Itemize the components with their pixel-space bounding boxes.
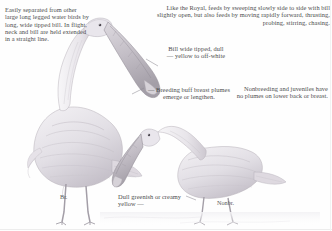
foraging-spoonbill-illustration (100, 126, 320, 226)
label-nonbreeding: Nonbr. (217, 199, 234, 206)
label-breeding: Br. (60, 193, 67, 200)
note-feeding-behavior: Like the Royal, feeds by sweeping slowly… (146, 4, 330, 26)
note-separation: Easily separated from other large long l… (5, 6, 89, 42)
leader-line-leg (186, 196, 196, 200)
note-leg-color: Dull greenish or creamy yellow — (118, 193, 184, 208)
leader-line-bill (146, 59, 158, 66)
note-nonbreeding-plumes: Nonbreeding and juveniles have no plumes… (236, 85, 328, 100)
bird-eye-2 (148, 134, 150, 136)
note-bill-description: Bill wide tipped, dull — yellow to off-w… (148, 45, 244, 60)
spoonbill-bill-2 (112, 134, 143, 187)
field-guide-plate: Easily separated from other large long l… (0, 0, 332, 231)
leader-lines (132, 59, 196, 200)
note-bill-line1: Bill wide tipped, dull (148, 45, 244, 52)
note-bill-line2: — yellow to off-white (148, 52, 244, 59)
bird-eye (99, 24, 102, 27)
bird-legs-left (56, 184, 95, 225)
leader-line-breast (132, 88, 144, 94)
page-edge-bottom (0, 229, 332, 230)
note-breeding-breast-plumes: — Breeding buff breast plumes emerge or … (146, 86, 232, 101)
page-edge-right (330, 0, 331, 231)
